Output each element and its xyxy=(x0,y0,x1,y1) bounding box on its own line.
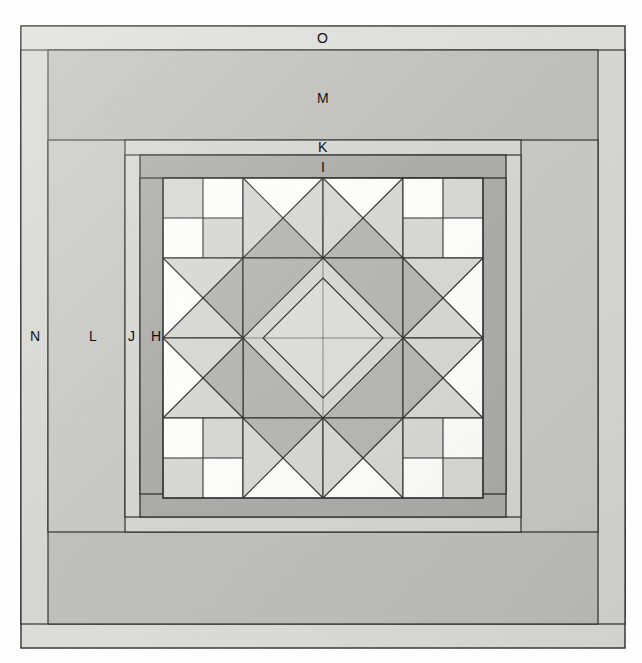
center-star-block xyxy=(163,178,483,498)
four-patch-bottom-right xyxy=(403,418,483,498)
four-patch-bottom-left xyxy=(163,418,243,498)
star-point-right-top xyxy=(403,258,483,338)
label-o: O xyxy=(317,31,328,45)
label-l: L xyxy=(89,329,97,343)
four-patch-top-left xyxy=(163,178,243,258)
label-k: K xyxy=(318,140,327,154)
center-square-in-square xyxy=(243,258,403,418)
star-point-left-top xyxy=(163,258,243,338)
label-j: J xyxy=(128,329,135,343)
label-m: M xyxy=(317,91,329,105)
star-point-top-right xyxy=(323,178,403,258)
label-i: I xyxy=(321,160,325,174)
label-h: H xyxy=(151,329,161,343)
star-point-right-bottom xyxy=(403,338,483,418)
star-point-left-bottom xyxy=(163,338,243,418)
star-point-bottom-right xyxy=(323,418,403,498)
four-patch-top-right xyxy=(403,178,483,258)
star-point-bottom-left xyxy=(243,418,323,498)
star-point-top-left xyxy=(243,178,323,258)
label-n: N xyxy=(30,329,40,343)
